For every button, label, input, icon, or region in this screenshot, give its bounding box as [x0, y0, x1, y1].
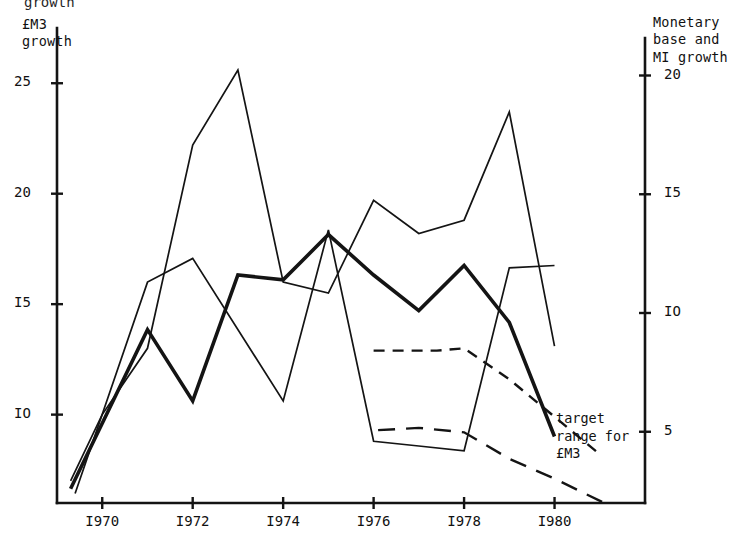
- x-tick-label-1978: I978: [439, 513, 489, 531]
- chart-figure: growth £M3 growth Monetary base and MI g…: [0, 0, 737, 537]
- y-left-tick-label-20: 20: [14, 184, 31, 202]
- x-tick-label-1970: I970: [77, 513, 127, 531]
- clipped-top-title: growth: [24, 0, 75, 12]
- series-line-0: [71, 70, 555, 481]
- target-range-annotation: target range for £M3: [556, 410, 629, 463]
- y-right-tick-label-5: 5: [664, 422, 672, 440]
- data-series-layer: [71, 70, 605, 503]
- y-right-tick-label-20: 20: [664, 66, 681, 84]
- x-tick-label-1972: I972: [168, 513, 218, 531]
- y-left-tick-label-10: IO: [14, 405, 31, 423]
- series-line-1: [71, 235, 555, 489]
- left-axis-title: £M3 growth: [22, 16, 72, 51]
- series-line-2: [75, 230, 554, 494]
- x-tick-label-1974: I974: [258, 513, 308, 531]
- y-left-tick-label-15: I5: [14, 294, 31, 312]
- y-left-tick-label-25: 25: [14, 73, 31, 91]
- x-tick-label-1976: I976: [349, 513, 399, 531]
- y-right-tick-label-15: I5: [664, 184, 681, 202]
- right-axis-title: Monetary base and MI growth: [653, 14, 728, 66]
- x-tick-label-1980: I980: [530, 513, 580, 531]
- y-right-tick-label-10: IO: [664, 303, 681, 321]
